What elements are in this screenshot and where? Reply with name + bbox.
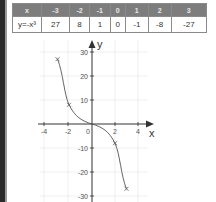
x-tick: 2 <box>113 128 117 135</box>
y-tick: 20 <box>80 73 88 80</box>
y-tick: -10 <box>78 145 88 152</box>
y-tick: 30 <box>80 49 88 56</box>
y-tick: 10 <box>80 97 88 104</box>
x-axis-label: x <box>149 127 155 139</box>
x-marker-icon <box>67 103 71 107</box>
x-tick: -2 <box>65 128 71 135</box>
y-tick: -30 <box>78 193 88 200</box>
x-marker-icon <box>125 187 129 191</box>
cubic-graph: x -4 -2 0 2 4 y 30 20 10 -10 -20 -30 <box>0 0 216 202</box>
y-tick: -20 <box>78 169 88 176</box>
x-marker-icon <box>56 57 60 61</box>
x-tick: -4 <box>41 128 47 135</box>
y-axis-label: y <box>97 38 103 50</box>
y-axis: y 30 20 10 -10 -20 -30 <box>44 38 138 202</box>
grid-lines <box>40 40 148 202</box>
x-axis: x -4 -2 0 2 4 <box>38 121 155 140</box>
x-tick: 0 <box>86 128 90 135</box>
y-axis-arrow-icon <box>89 40 96 48</box>
x-tick: 4 <box>136 128 140 135</box>
